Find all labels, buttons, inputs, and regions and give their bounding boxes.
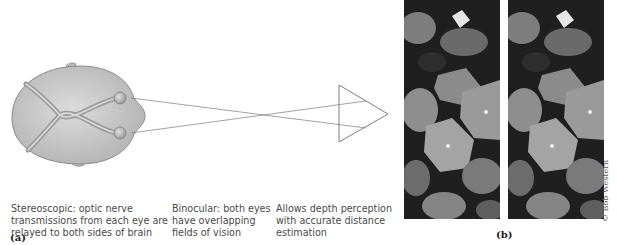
right-eye (114, 127, 126, 139)
stereo-photo-left (400, 0, 504, 220)
triangle-target (339, 85, 388, 142)
panel-label-a: (a) (10, 232, 26, 243)
caption-stereoscopic: Stereoscopic: optic nerve transmissions … (11, 203, 168, 239)
stereo-photo-right (504, 0, 608, 220)
head-top-view (12, 63, 145, 166)
panel-label-b: (b) (496, 229, 512, 240)
photo-credit: © Bob Western (601, 160, 610, 222)
caption-depth-perception: Allows depth perception with accurate di… (276, 203, 392, 239)
left-eye (114, 92, 126, 104)
caption-binocular: Binocular: both eyes have overlapping fi… (172, 203, 271, 239)
crossing-sight-lines (131, 98, 366, 133)
